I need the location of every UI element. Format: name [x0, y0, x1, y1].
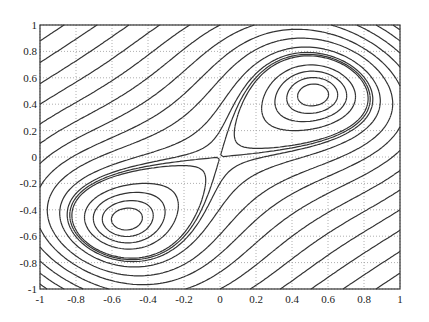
y-tick-label: -0.2 [20, 177, 37, 189]
x-tick-label: 0 [217, 293, 223, 305]
contour-chart: -1-0.8-0.6-0.4-0.200.20.40.60.81 10.80.6… [0, 0, 429, 322]
y-tick-label: -1 [28, 283, 37, 295]
y-tick-label: 0.2 [23, 125, 37, 137]
y-tick-label: -0.8 [20, 257, 38, 269]
x-tick-label: 1 [397, 293, 403, 305]
x-tick-label: -0.2 [175, 293, 192, 305]
x-tick-label: 0.8 [357, 293, 371, 305]
y-tick-label: 0.8 [23, 45, 37, 57]
x-tick-label: 0.2 [249, 293, 263, 305]
y-tick-label: 0.4 [23, 98, 37, 110]
x-axis-ticks: -1-0.8-0.6-0.4-0.200.20.40.60.81 [35, 293, 402, 305]
y-axis-ticks: 10.80.60.40.20-0.2-0.4-0.6-0.8-1 [20, 19, 38, 295]
y-tick-label: 0 [32, 151, 38, 163]
x-tick-label: -0.6 [103, 293, 121, 305]
x-tick-label: -0.8 [67, 293, 85, 305]
x-tick-label: 0.4 [285, 293, 299, 305]
y-tick-label: -0.4 [20, 204, 38, 216]
y-tick-label: -0.6 [20, 230, 38, 242]
y-tick-label: 0.6 [23, 72, 37, 84]
x-tick-label: 0.6 [321, 293, 335, 305]
y-tick-label: 1 [32, 19, 38, 31]
x-tick-label: -0.4 [139, 293, 157, 305]
